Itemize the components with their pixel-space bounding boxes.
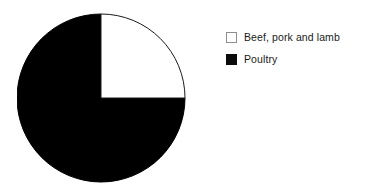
legend-label-beef-pork-and-lamb: Beef, pork and lamb (244, 32, 340, 43)
legend-item-beef-pork-and-lamb[interactable]: Beef, pork and lamb (226, 30, 361, 44)
pie-chart-svg (17, 13, 187, 184)
legend-swatch-beef-pork-and-lamb-icon (226, 32, 237, 43)
legend-label-poultry: Poultry (244, 54, 277, 65)
legend-swatch-poultry-icon (226, 54, 237, 65)
pie-chart-plot-area (17, 13, 187, 184)
pie-slice-beef-pork-and-lamb[interactable] (101, 14, 185, 98)
pie-chart-figure: Beef, pork and lamb Poultry (0, 0, 367, 194)
legend-item-poultry[interactable]: Poultry (226, 52, 361, 66)
chart-legend: Beef, pork and lamb Poultry (226, 30, 361, 74)
